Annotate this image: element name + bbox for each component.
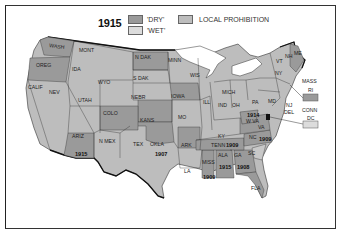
label-wis: WIS [190, 72, 200, 78]
label-sdak: S DAK [133, 75, 149, 81]
dc-callout-box [303, 121, 318, 128]
label-ndak: N DAK [135, 54, 151, 60]
label-ala: ALA [218, 152, 228, 158]
label-ri: RI [308, 87, 313, 93]
label-md: MD [268, 98, 276, 104]
label-vt: VT [276, 58, 283, 64]
year-nc: 1909 [259, 136, 271, 142]
ri-callout-box [303, 94, 318, 101]
label-miss: MISS [202, 159, 215, 165]
label-tenn: TENN [211, 142, 225, 148]
label-pa: PA [252, 99, 259, 105]
state-oreg [28, 57, 70, 82]
year-tenn: 1909 [226, 142, 238, 148]
label-iowa: IOWA [171, 93, 185, 99]
label-mo: MO [178, 114, 186, 120]
label-la: LA [184, 168, 191, 174]
label-okla: OKLA [150, 141, 164, 147]
label-ariz: ARIZ [72, 133, 84, 139]
us-map: WASH OREG CALIF IDA NEV MONT WYO UTAH AR… [0, 0, 341, 233]
year-okla: 1907 [155, 151, 167, 157]
label-sc: SC [248, 150, 255, 156]
dc-marker [266, 114, 270, 120]
year-ariz: 1915 [75, 151, 87, 157]
label-nev: NEV [49, 89, 60, 95]
label-dc: DC [307, 115, 315, 121]
label-ida: IDA [72, 66, 81, 72]
label-tex: TEX [133, 141, 144, 147]
label-conn: CONN [302, 107, 318, 113]
label-nj: NJ [286, 102, 293, 108]
label-va: VA [258, 124, 265, 130]
year-miss: 1909 [203, 174, 215, 180]
label-nh: NH [285, 53, 293, 59]
label-nmex: N MEX [99, 138, 116, 144]
label-me: ME [294, 50, 302, 56]
label-oh: OH [232, 102, 240, 108]
label-fla: FLA [251, 185, 261, 191]
label-mass: MASS [302, 78, 317, 84]
year-wva: 1914 [247, 112, 260, 118]
label-ark: ARK [181, 142, 192, 148]
label-kans: KANS [140, 117, 155, 123]
label-wyo: WYO [98, 79, 110, 85]
label-mont: MONT [79, 47, 95, 53]
label-colo: COLO [103, 110, 118, 116]
label-nebr: NEBR [131, 94, 146, 100]
year-ala: 1915 [219, 164, 231, 170]
label-minn: MINN [168, 57, 182, 63]
label-ind: IND [218, 102, 227, 108]
label-utah: UTAH [78, 97, 92, 103]
label-oreg: OREG [36, 62, 51, 68]
label-calif: CALIF [28, 84, 43, 90]
label-ky: KY [218, 133, 225, 139]
label-mich: MICH [222, 89, 236, 95]
label-nc: NC [249, 134, 257, 140]
label-ill: ILL [203, 99, 210, 105]
label-ga: GA [234, 152, 242, 158]
label-ny: NY [275, 70, 283, 76]
label-wva: W VA [246, 118, 259, 124]
label-del: DEL [284, 109, 294, 115]
year-ga: 1908 [237, 164, 249, 170]
